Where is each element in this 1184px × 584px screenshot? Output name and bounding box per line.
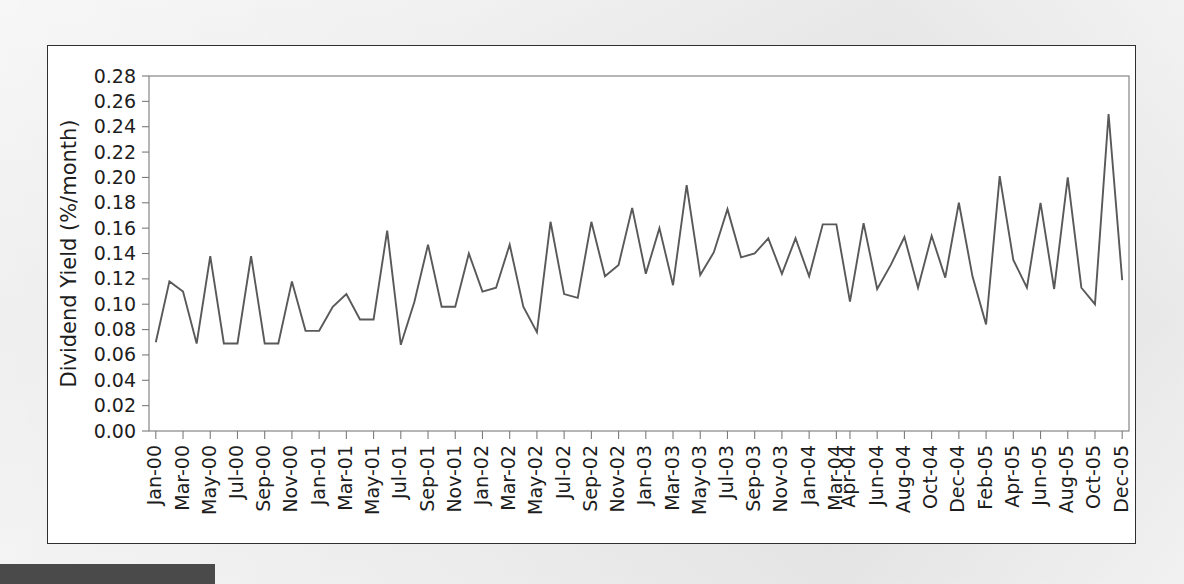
y-axis-tick-label: 0.16 bbox=[94, 217, 136, 239]
x-axis-tick-label: Mar-01 bbox=[334, 445, 356, 511]
y-axis-tick-label: 0.24 bbox=[94, 115, 136, 137]
y-axis-tick-label: 0.04 bbox=[94, 369, 136, 391]
y-axis-tick-label: 0.00 bbox=[94, 420, 136, 442]
x-axis-tick-label: Sep-00 bbox=[252, 445, 274, 512]
y-axis-tick-label: 0.26 bbox=[94, 90, 136, 112]
y-axis-tick-label: 0.06 bbox=[94, 343, 136, 365]
x-axis-tick-label: Dec-05 bbox=[1110, 445, 1132, 513]
plot-area-border bbox=[149, 76, 1129, 431]
x-axis-tick-label: May-00 bbox=[198, 445, 220, 515]
x-axis-tick-label: Sep-01 bbox=[416, 445, 438, 512]
x-axis-tick-label: Nov-01 bbox=[443, 445, 465, 513]
x-axis-tick-label: Mar-02 bbox=[497, 445, 519, 511]
y-axis-tick-label: 0.28 bbox=[94, 65, 136, 87]
x-axis-tick-label: Mar-00 bbox=[171, 445, 193, 511]
x-axis-tick-label: Jan-00 bbox=[143, 445, 165, 506]
dividend-yield-series-line bbox=[156, 114, 1122, 345]
x-axis-tick-label: Mar-03 bbox=[661, 445, 683, 511]
page-footer-bar bbox=[0, 564, 215, 584]
x-axis-tick-label: Jan-01 bbox=[307, 445, 329, 506]
x-axis-tick-label: May-03 bbox=[688, 445, 710, 515]
y-axis-tick-label: 0.14 bbox=[94, 242, 136, 264]
x-axis-tick-label: Jun-04 bbox=[865, 445, 887, 507]
x-axis-tick-label: Aug-04 bbox=[892, 445, 914, 513]
y-axis-tick-label: 0.12 bbox=[94, 267, 136, 289]
y-axis-title: Dividend Yield (%/month) bbox=[57, 119, 81, 387]
x-axis-tick-label: Jan-03 bbox=[633, 445, 655, 506]
x-axis-tick-label: Jul-02 bbox=[552, 445, 574, 500]
y-axis-tick-label: 0.10 bbox=[94, 293, 136, 315]
x-axis-tick-label: Sep-03 bbox=[742, 445, 764, 512]
x-axis-tick-label: Feb-05 bbox=[974, 445, 996, 510]
x-axis-tick-label: Jul-01 bbox=[388, 445, 410, 500]
x-axis-tick-label: Sep-02 bbox=[579, 445, 601, 512]
x-axis-tick-label: Jan-02 bbox=[470, 445, 492, 506]
y-axis-tick-label: 0.08 bbox=[94, 318, 136, 340]
x-axis-tick-label: Apr-05 bbox=[1001, 445, 1023, 508]
scanned-page: 0.000.020.040.060.080.100.120.140.160.18… bbox=[0, 0, 1184, 584]
y-axis-tick-label: 0.22 bbox=[94, 141, 136, 163]
x-axis-tick-label: Jan-04 bbox=[797, 445, 819, 506]
y-axis-tick-label: 0.20 bbox=[94, 166, 136, 188]
x-axis-tick-label: Jun-05 bbox=[1028, 445, 1050, 507]
x-axis-tick-label: Nov-03 bbox=[769, 445, 791, 513]
x-axis-tick-label: Apr-04 bbox=[837, 445, 859, 508]
x-axis-tick-label: May-01 bbox=[361, 445, 383, 515]
x-axis-tick-label: Nov-02 bbox=[606, 445, 628, 513]
x-axis-tick-label: Nov-00 bbox=[279, 445, 301, 513]
y-axis-tick-label: 0.18 bbox=[94, 191, 136, 213]
figure-frame: 0.000.020.040.060.080.100.120.140.160.18… bbox=[47, 45, 1136, 544]
chart-svg: 0.000.020.040.060.080.100.120.140.160.18… bbox=[48, 46, 1135, 543]
x-axis-tick-label: Jul-03 bbox=[715, 445, 737, 500]
x-axis-tick-label: Aug-05 bbox=[1055, 445, 1077, 513]
x-axis-tick-label: Dec-04 bbox=[946, 445, 968, 513]
x-axis-tick-label: Oct-04 bbox=[919, 445, 941, 509]
x-axis-tick-label: May-02 bbox=[524, 445, 546, 515]
x-axis-tick-label: Oct-05 bbox=[1082, 445, 1104, 509]
x-axis-tick-label: Jul-00 bbox=[225, 445, 247, 500]
dividend-yield-line-chart: 0.000.020.040.060.080.100.120.140.160.18… bbox=[48, 46, 1135, 543]
y-axis-tick-label: 0.02 bbox=[94, 394, 136, 416]
